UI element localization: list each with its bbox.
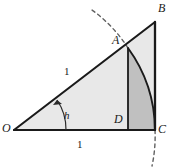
vertex-label-d: D <box>114 113 123 125</box>
measure-label-base: 1 <box>77 139 83 150</box>
vertex-label-c: C <box>158 123 166 135</box>
arc-dashed-upper <box>92 10 128 48</box>
arc-dashed-lower <box>152 130 155 166</box>
vertex-label-a: A <box>112 34 119 46</box>
vertex-label-o: O <box>2 122 11 134</box>
angle-label-h: h <box>64 110 70 121</box>
measure-label-radius: 1 <box>64 66 70 77</box>
geometry-figure: O A B C D h 1 1 <box>0 0 174 168</box>
geometry-canvas <box>0 0 174 168</box>
vertex-label-b: B <box>158 2 165 14</box>
